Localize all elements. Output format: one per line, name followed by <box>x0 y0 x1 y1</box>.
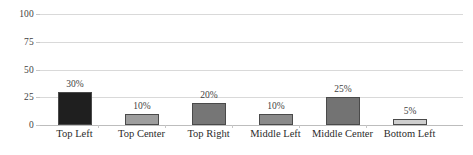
bar-group-2: 20% <box>192 14 226 125</box>
x-axis: Top Left Top Center Top Right Middle Lef… <box>40 128 463 148</box>
bar-chart: 100 75 50 25 0 30% 10% 20% 10% 25% <box>0 0 473 155</box>
bar-group-0: 30% <box>58 14 92 125</box>
bar-group-3: 10% <box>259 14 293 125</box>
y-tick-label-25: 25 <box>4 93 34 103</box>
gridline-baseline-0 <box>40 125 463 126</box>
y-tick-label-75: 75 <box>4 38 34 48</box>
bar-value-label-5: 5% <box>404 107 417 117</box>
y-tick-label-100: 100 <box>4 10 34 20</box>
bar-middle-left[interactable] <box>259 114 293 125</box>
bars-layer: 30% 10% 20% 10% 25% 5% <box>40 14 463 125</box>
bar-top-right[interactable] <box>192 103 226 125</box>
y-tick-label-0: 0 <box>4 121 34 131</box>
bar-group-5: 5% <box>393 14 427 125</box>
bar-bottom-left[interactable] <box>393 119 427 125</box>
y-tick-label-50: 50 <box>4 66 34 76</box>
bar-middle-center[interactable] <box>326 97 360 125</box>
y-tick-mark-0 <box>36 125 40 126</box>
bar-top-center[interactable] <box>125 114 159 125</box>
bar-value-label-2: 20% <box>200 91 217 101</box>
y-axis: 100 75 50 25 0 <box>0 14 34 125</box>
bar-top-left[interactable] <box>58 92 92 125</box>
bar-group-1: 10% <box>125 14 159 125</box>
bar-value-label-1: 10% <box>133 102 150 112</box>
bar-value-label-0: 30% <box>66 80 83 90</box>
bar-value-label-3: 10% <box>267 102 284 112</box>
bar-value-label-4: 25% <box>334 85 351 95</box>
bar-group-4: 25% <box>326 14 360 125</box>
x-label-bottom-left: Bottom Left <box>367 128 452 141</box>
